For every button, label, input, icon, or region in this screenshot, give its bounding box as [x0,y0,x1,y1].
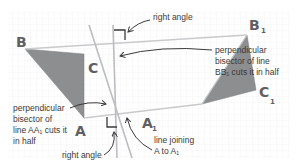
annotation-right-angle-top: right angle [153,12,193,22]
vertex-label-b1: B [249,17,260,33]
vertex-sub-c1: 1 [270,98,275,106]
annotation-line-joining-line2: A to A₁ [154,146,179,156]
annotation-bisector-aa1-line4: in half [13,136,36,146]
annotation-bisector-bb1-line1: perpendicular [215,45,267,55]
vertex-sub-b1: 1 [261,27,266,35]
vertex-label-c1: C [259,84,269,100]
vertex-label-c: C [88,60,98,76]
vertex-sub-a1: 1 [152,125,157,133]
vertex-label-a: A [75,123,86,139]
annotation-bisector-bb1-line3: BB₁ cuts it in half [215,67,279,77]
annotation-bisector-bb1-line2: bisector of line [215,56,270,66]
annotation-right-angle-bottom: right angle [62,150,102,160]
vertex-label-b: B [16,34,27,50]
annotation-bisector-aa1-line3: line AA₁ cuts it [13,125,68,135]
annotation-line-joining-line1: line joining [154,135,194,145]
annotation-bisector-aa1-line2: bisector of [13,114,53,124]
annotation-bisector-aa1-line1: perpendicular [13,103,65,113]
rotation-diagram: B C A B 1 C 1 A 1 right angle perpendicu… [0,0,302,168]
